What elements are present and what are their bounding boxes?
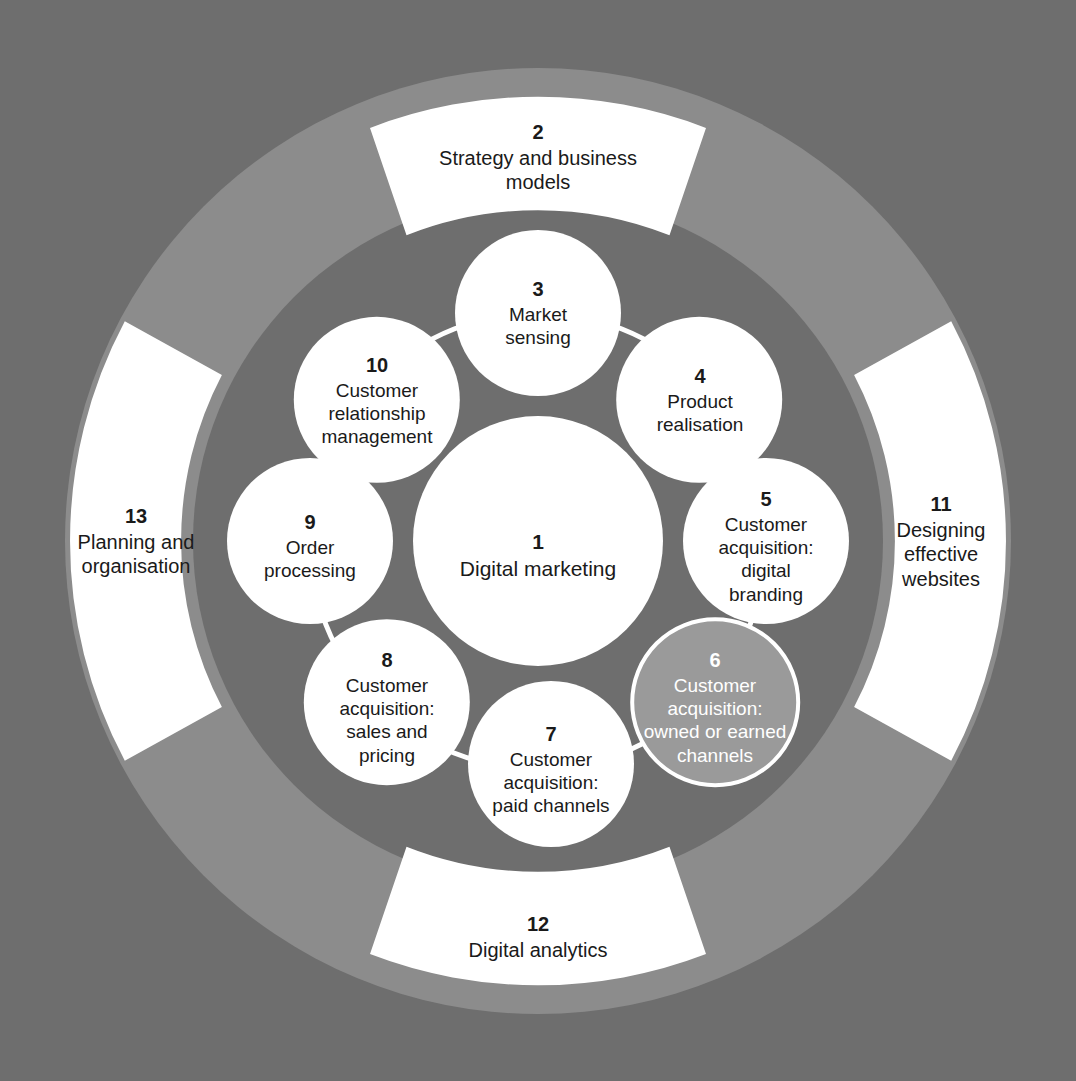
node-circle-5[interactable] xyxy=(683,458,849,624)
wheel-graphic xyxy=(0,0,1076,1081)
node-circle-7[interactable] xyxy=(468,681,634,847)
node-circle-9[interactable] xyxy=(227,458,393,624)
node-circle-4[interactable] xyxy=(616,317,782,483)
node-circle-10[interactable] xyxy=(294,317,460,483)
diagram-canvas: 1 Digital marketing 3 Market sensing 4 P… xyxy=(0,0,1076,1081)
node-circle-1[interactable] xyxy=(413,416,663,666)
node-circle-8[interactable] xyxy=(304,619,470,785)
node-circle-3[interactable] xyxy=(455,230,621,396)
node-circle-6[interactable] xyxy=(632,619,798,785)
